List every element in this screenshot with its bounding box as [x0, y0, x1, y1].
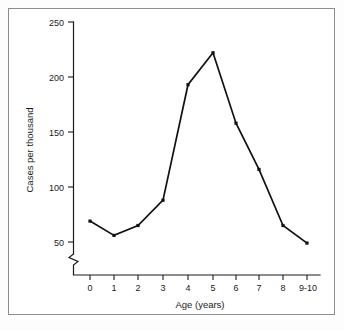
x-tick-label-0: 0 [87, 283, 92, 293]
y-tick-label-50: 50 [54, 238, 64, 248]
x-tick-label-9-10: 9-10 [299, 283, 317, 293]
y-tick-label-250: 250 [49, 18, 64, 28]
figure-container: 250 200 150 100 50 Cases per thousand 0 … [0, 0, 344, 331]
x-tick-label-8: 8 [280, 283, 285, 293]
data-point-marker [88, 220, 91, 223]
data-point-marker [186, 83, 189, 86]
y-tick-label-150: 150 [49, 128, 64, 138]
series-line-cases [90, 53, 307, 243]
y-tick-label-100: 100 [49, 183, 64, 193]
x-tick-label-3: 3 [160, 283, 165, 293]
data-point-marker [281, 224, 284, 227]
y-axis-break-icon [69, 254, 78, 275]
x-tick-label-1: 1 [111, 283, 116, 293]
y-axis-group: 250 200 150 100 50 Cases per thousand [24, 18, 78, 276]
x-axis-title: Age (years) [175, 299, 224, 310]
line-chart: 250 200 150 100 50 Cases per thousand 0 … [0, 0, 344, 331]
x-tick-label-5: 5 [210, 283, 215, 293]
x-axis-group: 0 1 2 3 4 5 6 7 8 9-10 Age (years) [74, 275, 321, 310]
data-point-marker [112, 234, 115, 237]
x-tick-label-7: 7 [256, 283, 261, 293]
data-point-marker [234, 122, 237, 125]
data-point-marker [161, 199, 164, 202]
series-markers [88, 51, 308, 245]
data-series-group [88, 51, 308, 245]
x-tick-label-2: 2 [135, 283, 140, 293]
x-tick-label-6: 6 [233, 283, 238, 293]
x-tick-label-4: 4 [185, 283, 190, 293]
data-point-marker [136, 224, 139, 227]
data-point-marker [211, 51, 214, 54]
data-point-marker [305, 242, 308, 245]
data-point-marker [257, 168, 260, 171]
y-axis-title: Cases per thousand [24, 107, 35, 192]
y-tick-label-200: 200 [49, 73, 64, 83]
